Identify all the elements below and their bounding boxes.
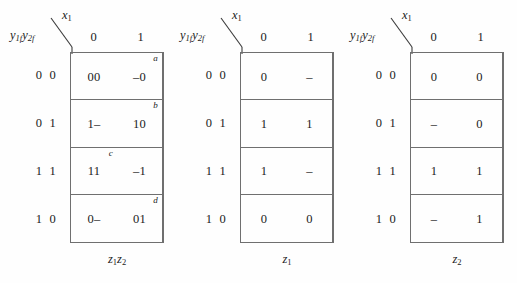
row-label-group: 0 0 0 1 1 1 1 0 [348,52,406,243]
cell-value: 0– [88,212,101,227]
column-header-0: 0 [240,30,287,45]
cell-value: – [431,212,437,227]
kmap-cell[interactable]: – [411,195,457,242]
kmap-cell[interactable]: – [287,148,333,195]
kmap-cell[interactable]: 1– [71,100,117,147]
kmap-cell[interactable]: 1 [457,195,503,242]
cell-value: 01 [133,212,146,227]
cell-value: – [306,164,312,179]
cell-value: 0 [476,117,482,132]
column-variable-label: x1 [62,8,72,23]
row-variable-label: y1fy2f [180,28,204,43]
figure-karnaugh-maps: y1fy2f x1 0 1 0 0 0 1 1 1 1 0 00 a–0 1– … [0,0,517,283]
kmap-cell[interactable]: d01 [117,195,163,242]
row-variable-label: y1fy2f [10,28,34,43]
kmap-cell[interactable]: 1 [287,100,333,147]
cell-value: 1 [261,117,267,132]
kmap-cell[interactable]: c11 [71,148,117,195]
kmap-cell[interactable]: 0 [287,195,333,242]
row-label: 1 1 [178,148,236,196]
cell-value: 11 [88,164,100,179]
row-label: 0 0 [348,52,406,100]
cell-value: 1 [261,164,267,179]
column-header-0: 0 [70,30,117,45]
kmap-corner-header: y1fy2f x1 [340,0,430,54]
column-header-1: 1 [117,30,164,45]
cell-value: 0 [306,212,312,227]
column-variable-label: x1 [402,8,412,23]
column-header-1: 1 [287,30,334,45]
column-header-0: 0 [410,30,457,45]
kmap-z1z2: y1fy2f x1 0 1 0 0 0 1 1 1 1 0 00 a–0 1– … [0,0,172,283]
kmap-corner-header: y1fy2f x1 [0,0,90,54]
kmap-corner-header: y1fy2f x1 [170,0,260,54]
kmap-grid: 0 0 – 0 1 1 – 1 [410,52,504,243]
cell-tag: d [153,196,158,205]
cell-value: 0 [431,70,437,85]
row-label: 1 0 [178,195,236,243]
kmap-cell[interactable]: 1 [241,148,287,195]
kmap-cell[interactable]: 1 [411,148,457,195]
kmap-cell[interactable]: 00 [71,53,117,100]
row-label: 0 1 [178,100,236,148]
column-variable-label: x1 [232,8,242,23]
cell-value: 0 [261,70,267,85]
cell-value: 00 [88,70,101,85]
kmap-cell[interactable]: –1 [117,148,163,195]
kmap-cell[interactable]: b10 [117,100,163,147]
kmap-z2: y1fy2f x1 0 1 0 0 0 1 1 1 1 0 0 0 – 0 1 … [340,0,512,283]
kmap-cell[interactable]: 0 [457,100,503,147]
kmap-cell[interactable]: 0– [71,195,117,242]
kmap-cell[interactable]: 0 [457,53,503,100]
kmap-z1: y1fy2f x1 0 1 0 0 0 1 1 1 1 0 0 – 1 1 1 … [170,0,342,283]
kmap-cell[interactable]: 1 [457,148,503,195]
kmap-cell[interactable]: a–0 [117,53,163,100]
cell-tag: c [109,149,113,158]
cell-value: – [431,117,437,132]
cell-value: 1 [431,164,437,179]
kmap-caption: z2 [410,252,504,267]
row-label-group: 0 0 0 1 1 1 1 0 [178,52,236,243]
cell-value: 0 [476,70,482,85]
row-label-group: 0 0 0 1 1 1 1 0 [8,52,66,243]
kmap-cell[interactable]: – [411,100,457,147]
row-label: 0 0 [178,52,236,100]
cell-value: –1 [133,164,146,179]
row-label: 1 0 [348,195,406,243]
kmap-cell[interactable]: – [287,53,333,100]
kmap-caption: z1z2 [70,252,164,267]
kmap-cell[interactable]: 0 [411,53,457,100]
row-label: 1 1 [348,148,406,196]
cell-tag: a [153,54,158,63]
cell-tag: b [153,101,158,110]
cell-value: 1 [476,164,482,179]
cell-value: 1– [88,117,101,132]
cell-value: 1 [476,212,482,227]
cell-value: 10 [133,117,146,132]
cell-value: –0 [133,70,146,85]
row-label: 1 0 [8,195,66,243]
kmap-cell[interactable]: 0 [241,53,287,100]
kmap-cell[interactable]: 1 [241,100,287,147]
cell-value: – [306,70,312,85]
cell-value: 1 [306,117,312,132]
kmap-cell[interactable]: 0 [241,195,287,242]
cell-value: 0 [261,212,267,227]
row-label: 0 1 [348,100,406,148]
row-variable-label: y1fy2f [350,28,374,43]
row-label: 0 1 [8,100,66,148]
kmap-grid: 00 a–0 1– b10 c11 –1 0– d01 [70,52,164,243]
column-header-1: 1 [457,30,504,45]
row-label: 1 1 [8,148,66,196]
kmap-caption: z1 [240,252,334,267]
row-label: 0 0 [8,52,66,100]
kmap-grid: 0 – 1 1 1 – 0 0 [240,52,334,243]
